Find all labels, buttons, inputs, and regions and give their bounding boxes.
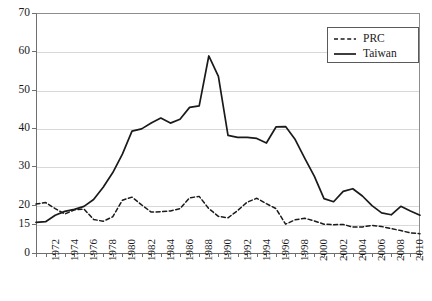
legend-swatch-solid bbox=[333, 49, 357, 59]
legend-label-prc: PRC bbox=[363, 33, 385, 45]
line-chart: 015203040506070 197219741976197819801982… bbox=[0, 0, 432, 301]
legend-item-taiwan: Taiwan bbox=[333, 46, 413, 61]
series-line-prc bbox=[36, 196, 420, 233]
series-line-taiwan bbox=[36, 56, 420, 223]
legend: PRC Taiwan bbox=[327, 27, 419, 63]
legend-swatch-dashed bbox=[333, 34, 357, 44]
legend-label-taiwan: Taiwan bbox=[363, 48, 397, 60]
legend-item-prc: PRC bbox=[333, 31, 413, 46]
